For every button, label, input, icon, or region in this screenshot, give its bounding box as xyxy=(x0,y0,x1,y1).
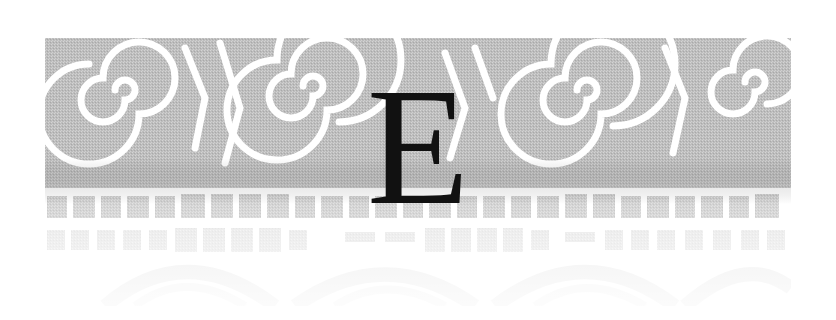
chapter-initial-letter: E xyxy=(0,62,836,230)
chapter-opener-page: E xyxy=(0,0,836,320)
